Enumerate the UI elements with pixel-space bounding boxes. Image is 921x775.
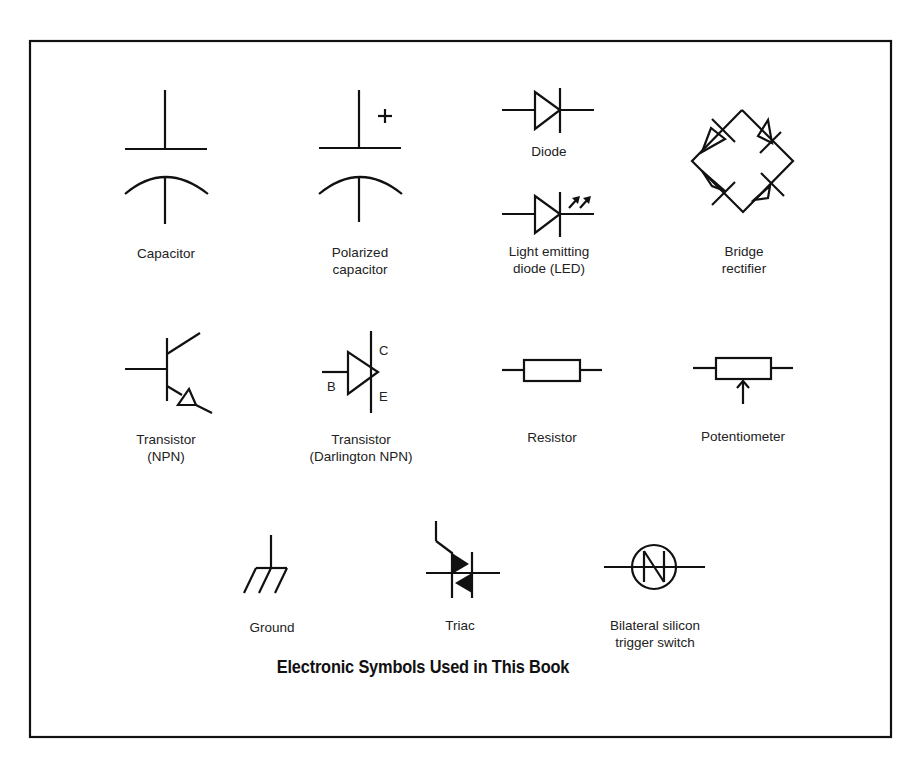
triac-label: Triac [445,617,475,634]
transistor-npn-label: Transistor (NPN) [136,431,196,465]
bridge-rectifier-label: Bridge rectifier [722,243,766,277]
ground-label: Ground [249,619,294,636]
figure-title: Electronic Symbols Used in This Book [277,656,570,678]
label-line: Transistor [136,431,196,448]
led-symbol [502,192,594,237]
base-pin-label: B [327,379,336,394]
label-line: Ground [249,619,294,636]
label-line: Resistor [527,429,577,446]
label-line: Transistor [310,431,413,448]
label-line: trigger switch [610,634,700,651]
ground-symbol [244,535,287,593]
resistor-symbol [502,360,602,381]
polarized-capacitor-label: Polarized capacitor [332,244,388,278]
label-line: rectifier [722,260,766,277]
transistor-npn-symbol [125,333,212,413]
label-line: Bridge [722,243,766,260]
label-line: capacitor [332,261,388,278]
label-line: Triac [445,617,475,634]
potentiometer-symbol [693,358,793,404]
potentiometer-label: Potentiometer [701,428,785,445]
label-line: (NPN) [136,448,196,465]
label-line: Light emitting [509,243,589,260]
resistor-label: Resistor [527,429,577,446]
polarized-capacitor-symbol [319,90,402,222]
label-line: (Darlington NPN) [310,448,413,465]
emitter-pin-label: E [379,389,388,404]
label-line: diode (LED) [509,260,589,277]
capacitor-symbol [125,90,208,224]
label-line: Polarized [332,244,388,261]
transistor-darlington-symbol [322,331,378,413]
label-line: Diode [531,143,566,160]
bilateral-switch-symbol [604,545,705,589]
label-line: Capacitor [137,245,195,262]
diode-symbol [502,88,594,133]
capacitor-label: Capacitor [137,245,195,262]
diode-label: Diode [531,143,566,160]
collector-pin-label: C [379,343,388,358]
led-label: Light emitting diode (LED) [509,243,589,277]
bridge-rectifier-symbol [692,110,793,212]
label-line: Potentiometer [701,428,785,445]
bilateral-switch-label: Bilateral silicon trigger switch [610,617,700,651]
transistor-darlington-label: Transistor (Darlington NPN) [310,431,413,465]
label-line: Bilateral silicon [610,617,700,634]
